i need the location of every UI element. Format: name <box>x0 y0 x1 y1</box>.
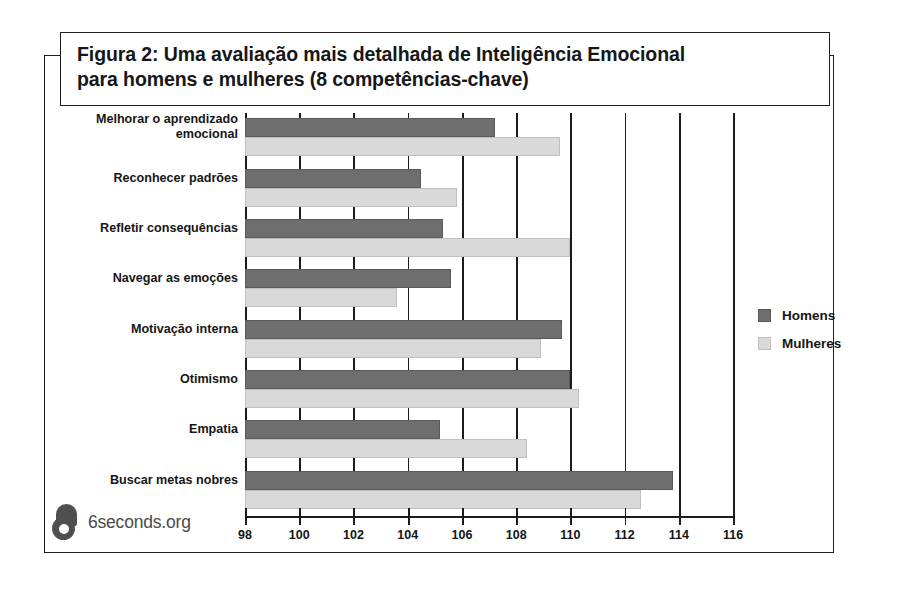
category-label-line: emocional <box>52 127 238 142</box>
sixseconds-logo: 6seconds.org <box>52 504 191 540</box>
x-tick-102 <box>353 508 355 525</box>
bar-men-6 <box>245 420 440 439</box>
x-tick-label-98: 98 <box>238 528 252 542</box>
legend-label-women: Mulheres <box>782 336 841 351</box>
bar-men-2 <box>245 219 443 238</box>
category-label-7: Buscar metas nobres <box>52 472 238 487</box>
category-label-line: Motivação interna <box>52 321 238 336</box>
category-label-1: Reconhecer padrões <box>52 170 238 185</box>
bar-women-3 <box>245 288 397 307</box>
bar-men-3 <box>245 269 451 288</box>
x-tick-label-102: 102 <box>343 528 364 542</box>
bar-women-7 <box>245 490 641 509</box>
x-tick-108 <box>516 508 518 525</box>
legend-label-men: Homens <box>782 308 835 323</box>
x-tick-104 <box>408 508 410 525</box>
x-tick-110 <box>570 508 572 525</box>
bar-women-6 <box>245 439 527 458</box>
legend-swatch-men-icon <box>758 309 771 322</box>
bar-men-0 <box>245 118 495 137</box>
x-tick-106 <box>462 508 464 525</box>
bar-women-5 <box>245 389 579 408</box>
category-label-6: Empatia <box>52 422 238 437</box>
legend-swatch-women-icon <box>758 337 771 350</box>
x-tick-label-110: 110 <box>560 528 580 542</box>
logo-wordmark: 6seconds.org <box>88 512 191 533</box>
gridline-110 <box>570 113 572 516</box>
plot-area <box>245 113 733 516</box>
gridline-114 <box>679 113 681 516</box>
category-label-line: Navegar as emoções <box>52 271 238 286</box>
x-tick-label-114: 114 <box>669 528 689 542</box>
x-tick-112 <box>625 508 627 525</box>
category-label-line: Buscar metas nobres <box>52 472 238 487</box>
figure-title-line-1: Figura 2: Uma avaliação mais detalhada d… <box>77 42 815 67</box>
x-tick-116 <box>733 508 735 525</box>
figure-title-line-2: para homens e mulheres (8 competências-c… <box>77 67 815 92</box>
bar-men-1 <box>245 169 421 188</box>
category-label-2: Refletir consequências <box>52 220 238 235</box>
6seconds-logo-icon <box>52 504 82 540</box>
category-label-line: Empatia <box>52 422 238 437</box>
category-label-line: Melhorar o aprendizado <box>52 112 238 127</box>
legend-item-men: Homens <box>758 308 878 323</box>
bar-women-0 <box>245 137 560 156</box>
x-tick-label-116: 116 <box>723 528 743 542</box>
bar-men-7 <box>245 471 673 490</box>
x-tick-label-106: 106 <box>452 528 473 542</box>
bar-women-4 <box>245 339 541 358</box>
bar-men-4 <box>245 320 562 339</box>
x-tick-label-112: 112 <box>615 528 635 542</box>
gridline-112 <box>625 113 627 516</box>
chart-legend: Homens Mulheres <box>758 308 878 364</box>
x-tick-label-104: 104 <box>397 528 418 542</box>
legend-item-women: Mulheres <box>758 336 878 351</box>
category-label-3: Navegar as emoções <box>52 271 238 286</box>
x-tick-98 <box>245 508 247 525</box>
category-label-line: Otimismo <box>52 372 238 387</box>
x-axis-line <box>245 516 734 518</box>
bar-men-5 <box>245 370 570 389</box>
bar-women-1 <box>245 188 457 207</box>
bar-women-2 <box>245 238 570 257</box>
figure-title-box: Figura 2: Uma avaliação mais detalhada d… <box>60 32 830 106</box>
category-label-4: Motivação interna <box>52 321 238 336</box>
x-tick-100 <box>299 508 301 525</box>
category-label-0: Melhorar o aprendizadoemocional <box>52 112 238 142</box>
category-label-line: Refletir consequências <box>52 220 238 235</box>
x-tick-label-108: 108 <box>506 528 527 542</box>
category-label-line: Reconhecer padrões <box>52 170 238 185</box>
x-tick-label-100: 100 <box>289 528 310 542</box>
gridline-116 <box>733 113 735 516</box>
x-tick-114 <box>679 508 681 525</box>
category-label-5: Otimismo <box>52 372 238 387</box>
category-axis-labels: Melhorar o aprendizadoemocionalReconhece… <box>52 113 238 516</box>
